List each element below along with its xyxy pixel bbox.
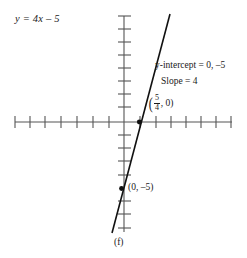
x-intercept-label-tail: , 0) — [161, 98, 174, 109]
y-intercept-annotation: y-intercept = 0, –5 — [155, 60, 225, 71]
slope-annotation: Slope = 4 — [161, 76, 198, 87]
y-intercept-point-label: (0, –5) — [128, 182, 153, 193]
equation-label: y = 4x – 5 — [15, 13, 60, 25]
x-intercept-point-label: ( 5 4 , 0) — [148, 94, 173, 112]
y-intercept-point — [119, 186, 124, 191]
panel-label: (f) — [114, 237, 124, 248]
graph-figure: y = 4x – 5 y-intercept = 0, –5 Slope = 4… — [0, 0, 247, 258]
fraction-denominator: 4 — [154, 104, 160, 112]
x-intercept-point — [137, 120, 142, 125]
fraction-numerator: 5 — [154, 94, 160, 102]
x-intercept-fraction: 5 4 — [154, 94, 160, 112]
coordinate-plane — [0, 0, 247, 258]
x-intercept-open-paren: ( — [149, 95, 153, 112]
